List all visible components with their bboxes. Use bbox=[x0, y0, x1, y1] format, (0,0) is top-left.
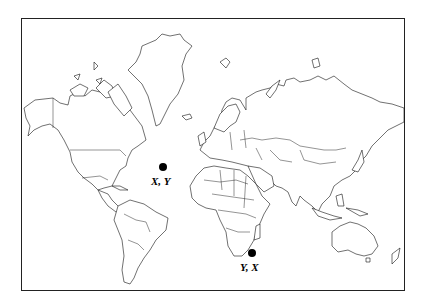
south-america bbox=[114, 200, 168, 284]
point-marker-y-x[interactable] bbox=[248, 249, 256, 257]
world-map bbox=[0, 0, 425, 302]
point-label-y-x: Y, X bbox=[240, 261, 259, 273]
point-marker-x-y[interactable] bbox=[159, 163, 167, 171]
greenland bbox=[128, 34, 192, 126]
point-label-x-y: X, Y bbox=[151, 175, 170, 187]
australia bbox=[332, 222, 378, 256]
